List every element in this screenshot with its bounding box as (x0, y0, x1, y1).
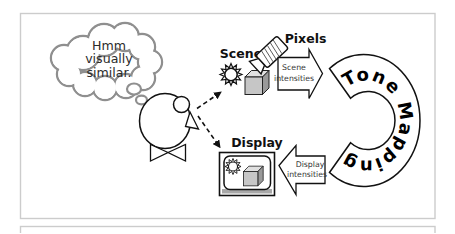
thought-text-line3: similar. (86, 65, 131, 80)
scene-arrow-text-line2: intensities (274, 74, 314, 83)
cube-icon (245, 71, 269, 95)
person-eye (174, 97, 190, 113)
display-label: Display (231, 135, 283, 150)
next-frame-edge (21, 227, 436, 234)
diagram-canvas: Hmm visually similar. Scene Pixels Scene… (0, 0, 455, 233)
scene-arrow-text-line1: Scene (282, 63, 306, 72)
display-cube-icon (244, 166, 264, 186)
pixels-label: Pixels (285, 31, 327, 46)
display-arrow-text-line1: Display (296, 160, 325, 169)
display-monitor-icon (220, 153, 275, 196)
display-arrow-text-line2: intensities (287, 170, 327, 179)
tone-mapping-diagram: Hmm visually similar. Scene Pixels Scene… (0, 0, 455, 233)
